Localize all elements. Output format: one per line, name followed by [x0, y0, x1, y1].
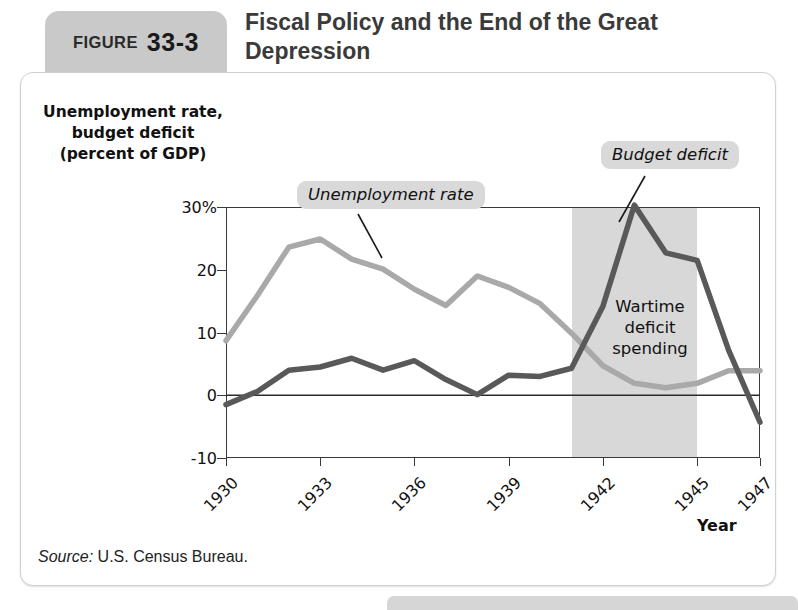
wartime-region-label: Wartime deficit spending	[590, 296, 710, 359]
leader-line-unemployment	[358, 214, 382, 258]
bottom-partial-bar	[387, 596, 798, 610]
leader-line-deficit	[619, 176, 645, 222]
source-note: Source: U.S. Census Bureau.	[38, 548, 248, 566]
source-label: Source:	[38, 548, 93, 565]
source-value: U.S. Census Bureau.	[93, 548, 248, 565]
